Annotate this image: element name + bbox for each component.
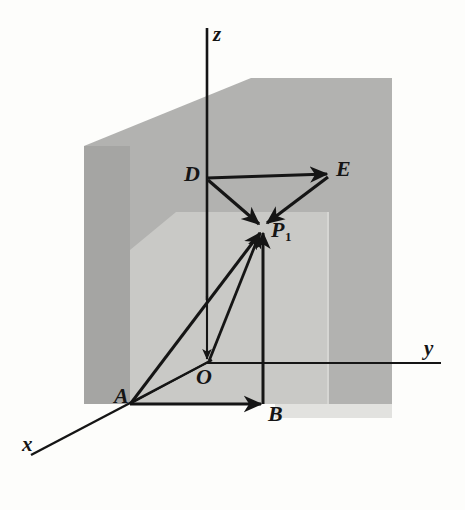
point-label-E-text: E [336,156,351,181]
axis-label-y: y [424,338,433,359]
point-label-D: D [184,163,200,185]
point-label-B: B [268,403,283,425]
axis-label-x: x [22,434,33,455]
point-label-P1-text: P [271,217,284,242]
point-label-A-text: A [114,383,129,408]
axis-label-z: z [213,24,221,45]
point-label-O: O [196,366,212,388]
point-label-P1-subscript: 1 [285,229,292,244]
point-label-B-text: B [268,401,283,426]
point-label-D-text: D [184,161,200,186]
point-label-O-text: O [196,364,212,389]
figure-canvas: z y x D E P1 A B O [0,0,465,510]
axis-label-z-text: z [213,22,221,46]
side-wall-shape [84,146,130,404]
vector-diagram-svg [0,0,465,510]
point-label-P1: P1 [271,219,291,243]
point-label-E: E [336,158,351,180]
axis-label-x-text: x [22,432,33,456]
point-label-A: A [114,385,129,407]
axis-label-y-text: y [424,336,433,360]
